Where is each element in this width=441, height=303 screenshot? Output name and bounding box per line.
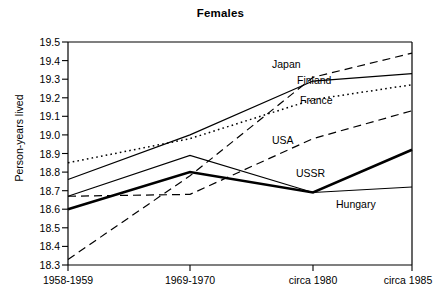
series-label-hungary: Hungary — [336, 198, 376, 210]
plot-area — [0, 0, 441, 303]
series-lines — [68, 53, 412, 259]
series-line-japan — [68, 53, 412, 259]
series-line-france — [68, 85, 412, 163]
x-tick-label-1969-1970: 1969-1970 — [165, 274, 215, 286]
series-label-ussr: USSR — [296, 167, 325, 179]
series-line-usa — [68, 111, 412, 196]
x-tick-label-1958-1959: 1958-1959 — [43, 274, 93, 286]
x-tick-label-circa-1980: circa 1980 — [289, 274, 337, 286]
series-label-japan: Japan — [272, 58, 301, 70]
x-tick-label-circa-1985: circa 1985 — [384, 274, 432, 286]
x-axis-ticks — [68, 265, 412, 271]
series-line-finland — [68, 74, 412, 180]
series-label-usa: USA — [272, 134, 294, 146]
y-axis-ticks — [62, 42, 68, 265]
chart-container: Females Person-years lived 19.5 19.4 19.… — [0, 0, 441, 303]
series-line-hungary — [68, 155, 412, 196]
series-label-finland: Finland — [297, 74, 331, 86]
series-label-france: France — [300, 94, 333, 106]
